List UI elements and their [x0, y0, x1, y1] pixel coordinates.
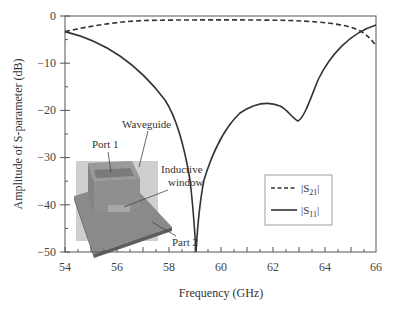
y-tick-label: −40: [37, 198, 56, 212]
x-tick-label: 60: [215, 260, 227, 274]
annotation-part2: Part 2: [172, 236, 198, 248]
x-tick-label: 66: [370, 260, 382, 274]
x-tick-label: 56: [111, 260, 123, 274]
y-tick-label: −30: [37, 150, 56, 164]
inset-waveguide-image: [74, 161, 172, 258]
y-tick-label: 0: [50, 9, 56, 23]
annotation-waveguide: Waveguide: [122, 118, 171, 130]
y-tick-label: −10: [37, 56, 56, 70]
y-axis-title: Amplitude of S-parameter (dB): [11, 59, 25, 210]
legend: |S21| |S11|: [265, 175, 332, 225]
annotation-inductive-window: Inductive: [161, 163, 203, 175]
x-tick-label: 62: [267, 260, 279, 274]
y-tick-label: −20: [37, 103, 56, 117]
x-tick-label: 64: [319, 260, 331, 274]
chart: 0 −10 −20 −30 −40 −50 54 56 58 60 62 64 …: [0, 0, 393, 310]
y-tick-label: −50: [37, 245, 56, 259]
annotation-inductive-window-2: window: [168, 176, 204, 188]
annotation-port1: Port 1: [92, 138, 119, 150]
x-axis-title: Frequency (GHz): [179, 286, 263, 300]
series-s21-line: [65, 20, 376, 46]
x-tick-label: 54: [59, 260, 71, 274]
x-tick-label: 58: [163, 260, 175, 274]
